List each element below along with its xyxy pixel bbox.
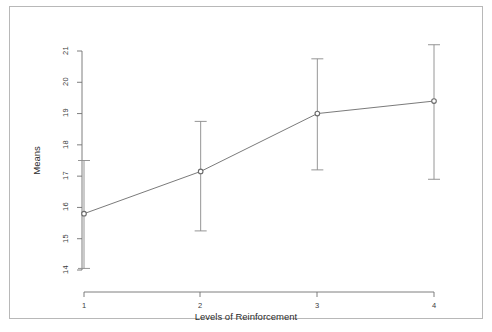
mean-point-1 — [82, 211, 87, 216]
mean-point-4 — [432, 99, 437, 104]
y-axis-title: Means — [31, 138, 42, 184]
y-tick-label-16: 16 — [61, 199, 70, 215]
y-tick-label-18: 18 — [61, 137, 70, 153]
y-tick-label-21: 21 — [61, 43, 70, 59]
mean-markers — [82, 99, 437, 216]
y-tick-label-20: 20 — [61, 74, 70, 90]
x-tick-label-1: 1 — [82, 301, 86, 310]
y-tick-label-14: 14 — [61, 262, 70, 278]
y-tick-label-19: 19 — [61, 105, 70, 121]
x-tick-label-4: 4 — [432, 301, 436, 310]
x-axis-title: Levels of Reinforcement — [0, 311, 492, 322]
x-tick-label-3: 3 — [315, 301, 319, 310]
error-bars — [78, 45, 440, 269]
mean-point-2 — [198, 169, 203, 174]
mean-point-3 — [315, 111, 320, 116]
y-tick-label-17: 17 — [61, 168, 70, 184]
x-axis-ticks — [84, 292, 434, 297]
means-line — [84, 101, 434, 214]
means-plot-chart — [0, 0, 492, 332]
y-tick-label-15: 15 — [61, 231, 70, 247]
x-tick-label-2: 2 — [198, 301, 202, 310]
